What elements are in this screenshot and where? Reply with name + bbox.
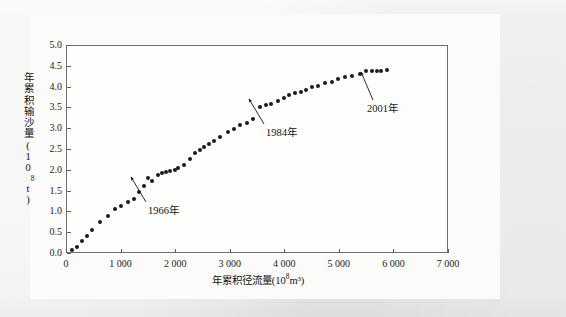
x-axis-title: 年累积径流量(108m³) xyxy=(0,271,516,287)
annotation-label: 1984年 xyxy=(266,127,297,138)
y-axis-title: 年累积输沙量(108t) xyxy=(24,72,38,206)
y-title-exponent: 8 xyxy=(28,174,37,183)
chart-container: 0.00.51.01.52.02.53.03.54.04.55.0 01 000… xyxy=(0,0,566,317)
annotation-label: 1966年 xyxy=(148,205,179,216)
annotation-arrow xyxy=(361,72,373,100)
annotation-label: 2001年 xyxy=(367,103,398,114)
annotation-arrows-layer xyxy=(0,0,566,317)
annotation-arrow xyxy=(131,177,146,202)
x-title-exponent: 8 xyxy=(286,272,290,281)
annotation-arrow xyxy=(249,99,264,124)
